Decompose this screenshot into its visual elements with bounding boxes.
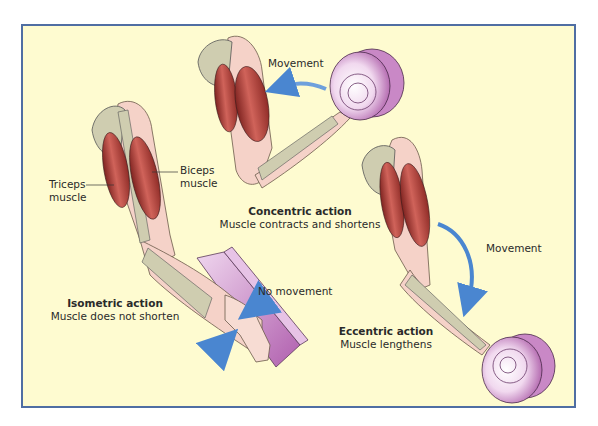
eccentric-caption: Eccentric action Muscle lengthens xyxy=(339,325,434,351)
triceps-label: Triceps muscle xyxy=(49,178,87,204)
no-movement-label: No movement xyxy=(258,285,332,298)
isometric-description: Muscle does not shorten xyxy=(51,310,180,323)
triceps-label-line1: Triceps xyxy=(49,178,87,191)
concentric-description: Muscle contracts and shortens xyxy=(220,218,381,231)
biceps-label: Biceps muscle xyxy=(180,164,218,190)
biceps-label-line1: Biceps xyxy=(180,164,218,177)
movement-label-top: Movement xyxy=(268,57,324,70)
movement-label-right: Movement xyxy=(486,242,542,255)
isometric-title: Isometric action xyxy=(51,297,180,310)
concentric-caption: Concentric action Muscle contracts and s… xyxy=(220,205,381,231)
eccentric-description: Muscle lengthens xyxy=(339,338,434,351)
biceps-label-line2: muscle xyxy=(180,177,218,190)
eccentric-title: Eccentric action xyxy=(339,325,434,338)
isometric-caption: Isometric action Muscle does not shorten xyxy=(51,297,180,323)
isometric-arm xyxy=(86,101,308,367)
eccentric-arm xyxy=(362,137,555,403)
concentric-title: Concentric action xyxy=(220,205,381,218)
triceps-label-line2: muscle xyxy=(49,191,87,204)
